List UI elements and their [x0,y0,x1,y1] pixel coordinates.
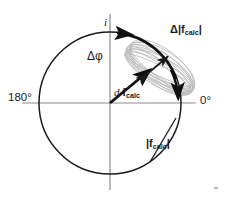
imaginary-axis-label: i [104,17,107,28]
vector-label: d·fcalc [114,87,140,98]
angle-label-180: 180° [8,92,32,104]
angle-label-0: 0° [200,95,211,107]
magnitude-label-subscript: calc [153,142,167,151]
vector-label-subscript: calc [126,91,140,100]
magnitude-label-text: |f [146,137,153,149]
phase-difference-label: Δφ [87,50,103,62]
vector-label-prefix: d· [114,86,122,98]
amplitude-difference-label: Δ|fcalc| [170,24,202,35]
amplitude-difference-text: Δ|f [170,23,185,35]
amplitude-difference-bar: | [199,23,202,35]
amplitude-difference-subscript: calc [185,28,199,37]
magnitude-label: |fcalc| [146,138,170,149]
complex-plane-figure: i 180° 0° Δφ Δ|fcalc| d·fcalc |fcalc| [0,0,228,202]
amplitude-error-arrow [147,57,169,75]
magnitude-label-bar: | [167,137,170,149]
